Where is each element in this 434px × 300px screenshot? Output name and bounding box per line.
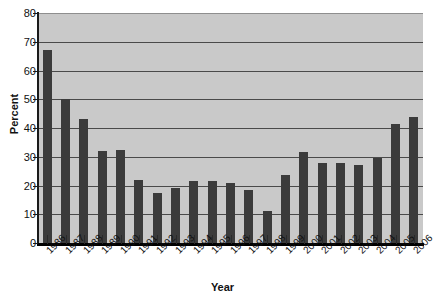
x-axis-tick-mark	[414, 235, 415, 244]
y-axis-tick-mark	[33, 243, 38, 244]
x-axis-tick-mark	[396, 235, 397, 244]
y-axis-tick-mark	[33, 186, 38, 187]
bar[interactable]	[281, 175, 290, 243]
bar[interactable]	[354, 165, 363, 243]
x-axis-tick-mark	[47, 235, 48, 244]
y-axis-tick-label: 20	[2, 180, 36, 192]
x-axis-tick-mark	[66, 235, 67, 244]
y-axis-tick-label: 30	[2, 151, 36, 163]
bar[interactable]	[98, 151, 107, 243]
y-axis-tick-label: 50	[2, 93, 36, 105]
x-axis-tick-mark	[341, 235, 342, 244]
x-axis-title: Year	[0, 281, 431, 293]
y-axis-tick-label: 40	[2, 122, 36, 134]
x-axis-tick-mark	[231, 235, 232, 244]
gridline	[38, 42, 423, 43]
y-axis-tick-label: 60	[2, 65, 36, 77]
bar[interactable]	[318, 163, 327, 244]
bar[interactable]	[391, 124, 400, 243]
x-axis-tick-mark	[121, 235, 122, 244]
y-axis-tick-label: 10	[2, 208, 36, 220]
x-axis-tick-mark	[139, 235, 140, 244]
bar[interactable]	[61, 99, 70, 243]
bar[interactable]	[299, 152, 308, 243]
x-axis-tick-mark	[84, 235, 85, 244]
y-axis-tick-labels: 01020304050607080	[0, 0, 36, 300]
gridline	[38, 99, 423, 100]
x-axis-tick-mark	[359, 235, 360, 244]
gridline	[38, 128, 423, 129]
gridline	[38, 13, 423, 14]
gridline	[38, 157, 423, 158]
x-axis-title-text: Year	[211, 281, 234, 293]
x-axis-tick-mark	[267, 235, 268, 244]
x-axis-tick-mark	[194, 235, 195, 244]
y-axis-tick-mark	[33, 157, 38, 158]
bar[interactable]	[336, 163, 345, 244]
bar[interactable]	[373, 158, 382, 243]
bar[interactable]	[116, 150, 125, 243]
y-axis-tick-mark	[33, 99, 38, 100]
y-axis-tick-label: 0	[2, 237, 36, 249]
y-axis-tick-mark	[33, 13, 38, 14]
x-axis-tick-mark	[377, 235, 378, 244]
bar[interactable]	[79, 119, 88, 243]
bar[interactable]	[43, 50, 52, 243]
x-axis-tick-mark	[286, 235, 287, 244]
x-axis-tick-mark	[212, 235, 213, 244]
gridline	[38, 71, 423, 72]
y-axis-tick-mark	[33, 128, 38, 129]
y-axis-tick-mark	[33, 214, 38, 215]
x-axis-tick-mark	[322, 235, 323, 244]
y-axis-tick-label: 80	[2, 7, 36, 19]
y-axis-tick-mark	[33, 71, 38, 72]
bar[interactable]	[409, 117, 418, 244]
x-axis-tick-mark	[176, 235, 177, 244]
x-axis-tick-mark	[157, 235, 158, 244]
plot-area	[38, 13, 423, 243]
x-axis-tick-mark	[304, 235, 305, 244]
y-axis-tick-mark	[33, 42, 38, 43]
x-axis-tick-mark	[249, 235, 250, 244]
x-axis-tick-mark	[102, 235, 103, 244]
y-axis-tick-label: 70	[2, 36, 36, 48]
